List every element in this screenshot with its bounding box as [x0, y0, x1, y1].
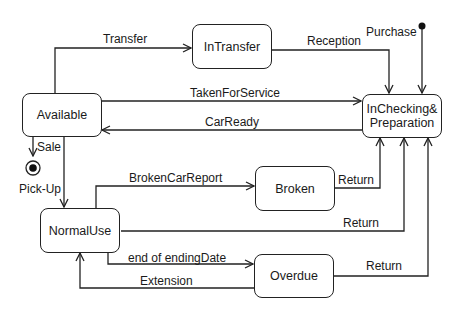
state-inchecking-preparation[interactable]: InChecking& Preparation — [362, 94, 442, 138]
label-purchase: Purchase — [366, 26, 417, 39]
state-available[interactable]: Available — [22, 93, 102, 137]
initial-pseudostate — [419, 23, 426, 30]
state-overdue[interactable]: Overdue — [254, 254, 334, 298]
label-reception: Reception — [307, 35, 361, 48]
state-broken[interactable]: Broken — [255, 166, 335, 211]
state-inchecking-label-line2: Preparation — [370, 116, 435, 130]
label-broken-car-report: BrokenCarReport — [129, 172, 222, 185]
final-state-inner — [29, 164, 37, 172]
state-available-label: Available — [37, 108, 88, 122]
state-broken-label: Broken — [275, 182, 315, 196]
label-sale: Sale — [37, 141, 61, 154]
label-return-broken: Return — [338, 174, 374, 187]
label-end-of-ending-date: end of endingDate — [128, 252, 226, 265]
label-extension: Extension — [140, 275, 193, 288]
state-normaluse-label: NormalUse — [49, 224, 112, 238]
label-return-normal: Return — [343, 217, 379, 230]
state-overdue-label: Overdue — [270, 269, 318, 283]
edge-broken-car-report — [96, 186, 254, 208]
label-taken-for-service: TakenForService — [190, 87, 280, 100]
edge-transfer — [55, 48, 191, 93]
label-car-ready: CarReady — [205, 116, 259, 129]
state-inchecking-label-line1: InChecking& — [367, 102, 438, 116]
state-intransfer-label: InTransfer — [204, 40, 261, 54]
label-transfer: Transfer — [103, 33, 147, 46]
edge-reception — [271, 50, 389, 93]
state-normaluse[interactable]: NormalUse — [40, 208, 120, 253]
label-pick-up: Pick-Up — [19, 183, 61, 196]
label-return-overdue: Return — [366, 260, 402, 273]
state-intransfer[interactable]: InTransfer — [192, 24, 272, 69]
